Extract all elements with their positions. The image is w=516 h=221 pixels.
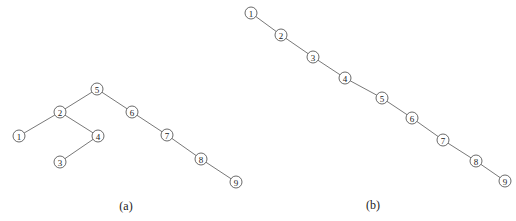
tree-edge (481, 164, 500, 177)
svg-text:9: 9 (234, 178, 239, 188)
tree-edge (318, 60, 340, 74)
binary-tree-diagram: 526143789(a)123456789(b) (0, 0, 516, 221)
svg-text:2: 2 (58, 108, 63, 118)
tree-node: 4 (92, 130, 104, 142)
tree-node: 3 (54, 156, 66, 168)
svg-text:4: 4 (96, 132, 101, 142)
tree-node: 9 (499, 175, 511, 187)
tree-node: 1 (245, 7, 257, 19)
tree-node: 9 (230, 176, 242, 188)
tree-node: 8 (470, 155, 482, 167)
tree-edge (24, 115, 55, 133)
tree-b: 123456789(b) (245, 7, 511, 212)
tree-node: 6 (406, 112, 418, 124)
svg-text:4: 4 (343, 74, 348, 84)
svg-text:3: 3 (58, 158, 63, 168)
tree-a: 526143789(a) (13, 83, 242, 213)
tree-edge (137, 115, 162, 131)
tree-edge (286, 38, 308, 53)
tree-node: 1 (13, 130, 25, 142)
tree-edge (206, 162, 231, 178)
tree-edge (417, 121, 438, 136)
figure-caption: (b) (366, 198, 380, 212)
svg-text:2: 2 (279, 31, 284, 41)
tree-node: 5 (91, 83, 103, 95)
tree-edge (350, 81, 376, 95)
svg-text:1: 1 (249, 9, 254, 19)
tree-edge (256, 17, 276, 32)
tree-node: 6 (126, 106, 138, 118)
tree-edge (448, 143, 471, 158)
tree-edge (387, 101, 407, 114)
svg-text:8: 8 (199, 155, 204, 165)
svg-text:7: 7 (441, 136, 446, 146)
tree-edge (102, 92, 127, 108)
svg-text:5: 5 (95, 85, 100, 95)
tree-node: 4 (339, 72, 351, 84)
svg-text:8: 8 (474, 157, 479, 167)
svg-text:1: 1 (17, 132, 22, 142)
tree-node: 7 (437, 134, 449, 146)
tree-node: 2 (275, 29, 287, 41)
tree-node: 7 (161, 129, 173, 141)
svg-text:5: 5 (380, 94, 385, 104)
tree-node: 3 (307, 51, 319, 63)
tree-node: 2 (54, 106, 66, 118)
tree-edge (65, 92, 92, 109)
svg-text:6: 6 (410, 114, 415, 124)
tree-edge (65, 139, 93, 158)
tree-edge (65, 115, 93, 133)
svg-text:7: 7 (165, 131, 170, 141)
tree-node: 8 (195, 153, 207, 165)
svg-text:9: 9 (503, 177, 508, 187)
tree-edge (172, 138, 196, 155)
svg-text:6: 6 (130, 108, 135, 118)
figure-caption: (a) (119, 199, 132, 213)
tree-node: 5 (376, 92, 388, 104)
svg-text:3: 3 (311, 53, 316, 63)
